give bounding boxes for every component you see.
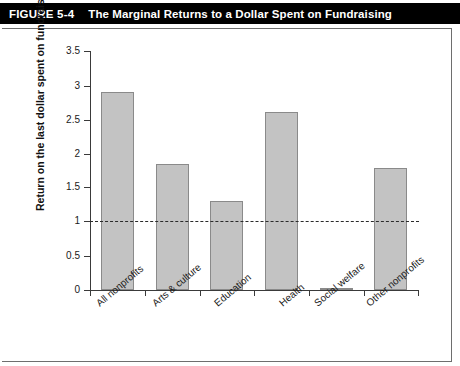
y-tick-label-3point5: 3.5 — [52, 45, 80, 56]
figure-container: FIGURE 5-4 The Marginal Returns to a Dol… — [0, 0, 460, 366]
y-tick-1point5 — [84, 187, 90, 188]
y-tick-label-2: 2 — [52, 148, 80, 159]
x-tick-0 — [90, 290, 91, 296]
y-axis-line — [90, 51, 91, 291]
bar-all-nonprofits — [101, 92, 134, 290]
y-tick-0point5 — [84, 256, 90, 257]
y-tick-label-1point5: 1.5 — [52, 181, 80, 192]
x-tick-2 — [200, 290, 201, 296]
figure-header-banner: FIGURE 5-4 The Marginal Returns to a Dol… — [0, 3, 460, 24]
y-tick-3 — [84, 86, 90, 87]
x-tick-1 — [145, 290, 146, 296]
x-tick-4 — [309, 290, 310, 296]
y-tick-label-0point5: 0.5 — [52, 250, 80, 261]
x-tick-5 — [364, 290, 365, 296]
y-tick-3point5 — [84, 51, 90, 52]
y-tick-2 — [84, 154, 90, 155]
y-axis-title: Return on the last dollar spent on fundr… — [34, 0, 46, 211]
x-tick-3 — [254, 290, 255, 296]
bar-health — [265, 112, 298, 290]
figure-title: The Marginal Returns to a Dollar Spent o… — [88, 8, 392, 20]
reference-line-one-dollar — [90, 221, 419, 222]
y-tick-2point5 — [84, 120, 90, 121]
y-tick-label-1: 1 — [52, 215, 80, 226]
y-tick-label-0: 0 — [52, 284, 80, 295]
y-tick-label-3: 3 — [52, 80, 80, 91]
y-tick-label-2point5: 2.5 — [52, 114, 80, 125]
x-tick-6 — [418, 290, 419, 296]
